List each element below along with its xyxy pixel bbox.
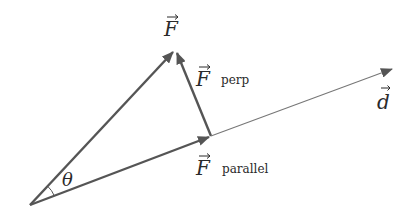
theta-arc	[48, 186, 55, 196]
label-f-text: F	[163, 17, 179, 41]
vector-f	[30, 52, 173, 205]
label-d-text: d	[377, 90, 390, 114]
force-diagram: F F perp F parallel d θ	[0, 0, 413, 214]
label-f-perp: F perp	[195, 65, 250, 92]
label-f-perp-main: F	[195, 67, 211, 91]
label-theta: θ	[62, 169, 73, 190]
vector-f-parallel	[30, 137, 209, 205]
label-d: d	[377, 86, 390, 115]
label-f-perp-sub: perp	[221, 73, 250, 87]
label-f-parallel-main: F	[195, 156, 211, 180]
label-f: F	[163, 15, 179, 42]
label-f-parallel-sub: parallel	[222, 162, 269, 176]
label-f-parallel: F parallel	[195, 154, 269, 181]
vector-f-perp	[177, 53, 211, 136]
